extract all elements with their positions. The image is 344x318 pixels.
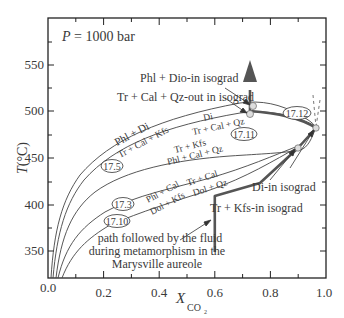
svg-text:T(°C): T(°C) — [15, 142, 31, 174]
dashed-boundary — [313, 95, 320, 127]
svg-text:1.0: 1.0 — [316, 285, 332, 300]
isograd-phl-dio-label: Phl + Dio-in isograd — [140, 71, 238, 85]
svg-text:17.5: 17.5 — [103, 161, 121, 172]
isograd-tr-cal-qz-label: Tr + Cal + Qz-out in isograd — [117, 90, 254, 104]
fluid-path-arrow-icon — [243, 60, 257, 82]
isograd-tr-kfs-label: Tr + Kfs-in isograd — [210, 201, 303, 215]
svg-text:0.0: 0.0 — [40, 280, 56, 295]
x-tick-labels: 0.0 0.2 0.4 0.6 0.8 1.0 — [40, 280, 332, 300]
invariant-point-tr-kfs — [295, 145, 301, 151]
y-axis-title: T(°C) — [15, 142, 31, 174]
svg-text:0.2: 0.2 — [95, 285, 111, 300]
svg-text:0.6: 0.6 — [207, 285, 224, 300]
svg-text:Di: Di — [202, 111, 214, 123]
svg-text:350: 350 — [25, 243, 45, 258]
pressure-label: P = 1000 bar — [61, 29, 135, 44]
svg-text:0.4: 0.4 — [151, 285, 168, 300]
svg-text:path followed by the fluid: path followed by the fluid — [98, 231, 223, 245]
svg-text:2: 2 — [204, 309, 207, 315]
svg-text:0.8: 0.8 — [262, 285, 278, 300]
isograd-di-label: Di-in isograd — [252, 180, 316, 194]
phase-diagram: 350 400 450 500 550 0.0 0.2 0.4 0.6 0.8 … — [0, 0, 344, 318]
fluid-path-caption: path followed by the fluid during metamo… — [89, 231, 225, 271]
svg-text:500: 500 — [25, 103, 45, 118]
svg-text:400: 400 — [25, 197, 45, 212]
svg-text:Marysville aureole: Marysville aureole — [112, 257, 202, 271]
svg-text:17.10: 17.10 — [106, 216, 129, 227]
invariant-point-tr-cal-qz — [247, 111, 254, 118]
svg-text:550: 550 — [25, 57, 45, 72]
svg-text:17.12: 17.12 — [286, 108, 309, 119]
svg-text:17.3: 17.3 — [114, 199, 132, 210]
svg-text:17.11: 17.11 — [233, 129, 255, 140]
svg-text:X: X — [175, 290, 186, 306]
svg-text:during metamorphism in the: during metamorphism in the — [89, 244, 225, 258]
svg-text:CO: CO — [187, 302, 201, 313]
x-axis-title: X CO 2 — [175, 290, 207, 315]
